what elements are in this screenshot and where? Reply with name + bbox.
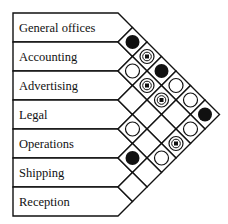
department-row: Legal — [13, 100, 133, 129]
department-label: Advertising — [19, 79, 79, 93]
filled-circle-icon — [198, 108, 212, 122]
open-circle-icon — [126, 122, 140, 136]
department-row: General offices — [13, 13, 133, 42]
department-label: Legal — [19, 108, 48, 122]
circle-dot-icon — [140, 79, 154, 93]
department-label: Shipping — [19, 166, 65, 180]
department-label: General offices — [19, 21, 96, 35]
circle-dot-icon — [169, 137, 183, 151]
open-circle-icon — [169, 79, 183, 93]
relationship-chart: General officesAccountingAdvertisingLega… — [0, 0, 228, 224]
open-circle-icon — [184, 93, 198, 107]
department-row: Shipping — [13, 158, 133, 187]
department-label: Reception — [19, 195, 70, 209]
circle-dot-icon — [140, 50, 154, 64]
department-label: Accounting — [19, 50, 78, 64]
filled-circle-icon — [155, 64, 169, 78]
department-label: Operations — [19, 137, 74, 151]
department-labels: General officesAccountingAdvertisingLega… — [13, 13, 133, 216]
filled-circle-icon — [126, 151, 140, 165]
department-row: Operations — [13, 129, 133, 158]
open-circle-icon — [184, 122, 198, 136]
department-row: Reception — [13, 187, 133, 216]
department-row: Advertising — [13, 71, 133, 100]
filled-circle-icon — [126, 35, 140, 49]
open-circle-icon — [126, 64, 140, 78]
circle-dot-icon — [155, 93, 169, 107]
open-circle-icon — [155, 151, 169, 165]
department-row: Accounting — [13, 42, 133, 71]
